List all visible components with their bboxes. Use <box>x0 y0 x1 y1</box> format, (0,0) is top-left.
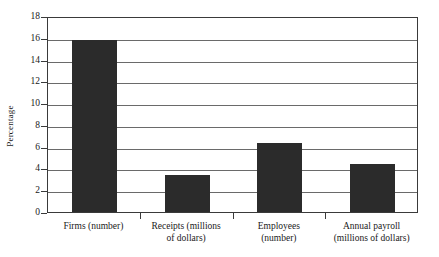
x-axis-tick-label-line: Receipts (millions <box>140 221 233 233</box>
y-axis-tick-label: 4 <box>18 165 40 175</box>
x-axis-tick-marks <box>47 213 418 219</box>
plot-area <box>47 17 418 213</box>
x-axis-tick-label-line: Firms (number) <box>47 221 140 233</box>
bar-series <box>48 18 417 212</box>
y-axis-tick-label: 2 <box>18 186 40 196</box>
x-axis-tick-label-line: (millions of dollars) <box>325 233 418 245</box>
y-axis-tick-label: 8 <box>18 121 40 131</box>
x-axis-tick-label: Firms (number) <box>47 221 140 233</box>
x-axis-tick-label-line: Employees <box>233 221 326 233</box>
bar <box>350 164 395 212</box>
x-axis-tick-labels: Firms (number)Receipts (millionsof dolla… <box>47 221 418 255</box>
y-axis-tick-label: 0 <box>18 208 40 218</box>
y-axis-tick-label: 12 <box>18 78 40 88</box>
x-axis-tick-mark <box>325 213 326 219</box>
x-axis-tick-mark <box>233 213 234 219</box>
x-axis-tick-label-line: (number) <box>233 233 326 245</box>
x-axis-tick-mark <box>140 213 141 219</box>
x-axis-tick-label: Annual payroll(millions of dollars) <box>325 221 418 244</box>
x-axis-tick-label-line: of dollars) <box>140 233 233 245</box>
y-axis-title-text: Percentage <box>5 105 15 146</box>
y-axis-title: Percentage <box>2 78 18 174</box>
x-axis-tick-label: Receipts (millionsof dollars) <box>140 221 233 244</box>
x-axis-tick-label: Employees(number) <box>233 221 326 244</box>
bar-chart-figure: Percentage 024681012141618 Firms (number… <box>0 0 439 257</box>
bar <box>165 175 210 212</box>
y-axis-tick-label: 18 <box>18 12 40 22</box>
y-axis-tick-label: 6 <box>18 143 40 153</box>
bar <box>72 40 117 212</box>
x-axis-tick-label-line: Annual payroll <box>325 221 418 233</box>
bar <box>257 143 302 212</box>
y-axis-tick-labels: 024681012141618 <box>18 17 40 213</box>
y-axis-tick-label: 16 <box>18 34 40 44</box>
y-axis-tick-label: 10 <box>18 99 40 109</box>
y-axis-tick-label: 14 <box>18 56 40 66</box>
